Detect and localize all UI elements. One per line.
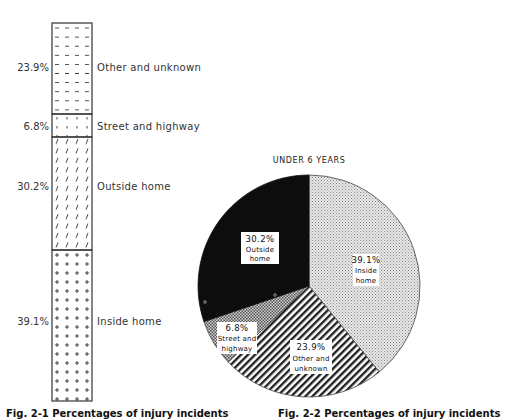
bar-label-other-unknown: Other and unknown xyxy=(97,62,201,73)
bar-pct-street-highway: 6.8% xyxy=(24,121,49,132)
pie-chart: UNDER 6 YEARS 30.2% Outside home 39.1% I… xyxy=(198,156,420,397)
svg-text:Inside: Inside xyxy=(355,267,377,275)
caption-right: Fig. 2-2 Percentages of injury incidents xyxy=(278,408,500,419)
bar-pct-outside-home: 30.2% xyxy=(17,181,49,192)
svg-text:23.9%: 23.9% xyxy=(296,342,325,352)
svg-text:39.1%: 39.1% xyxy=(351,255,380,265)
bar-segment-inside-home xyxy=(52,250,92,401)
svg-text:highway: highway xyxy=(222,345,253,353)
bar-label-outside-home: Outside home xyxy=(97,181,171,192)
svg-text:unknown: unknown xyxy=(294,365,327,373)
svg-text:Street and: Street and xyxy=(218,335,257,343)
stacked-bar: 23.9% Other and unknown 6.8% Street and … xyxy=(17,23,201,401)
pie-label-inside-home: 39.1% Inside home xyxy=(351,254,380,286)
svg-text:Outside: Outside xyxy=(246,246,274,254)
svg-text:30.2%: 30.2% xyxy=(245,234,274,244)
pie-label-street-highway: 6.8% Street and highway xyxy=(217,322,257,354)
svg-text:home: home xyxy=(356,277,377,285)
svg-text:home: home xyxy=(250,255,271,263)
bar-segment-outside-home xyxy=(52,137,92,250)
bar-pct-other-unknown: 23.9% xyxy=(17,62,49,73)
figure-caption: Fig. 2-1 Percentages of injury incidents… xyxy=(6,408,505,419)
pie-title: UNDER 6 YEARS xyxy=(273,156,346,165)
caption-left: Fig. 2-1 Percentages of injury incidents xyxy=(6,408,228,419)
bar-segment-street-highway xyxy=(52,114,92,137)
bar-label-inside-home: Inside home xyxy=(97,316,162,327)
svg-text:6.8%: 6.8% xyxy=(225,323,248,333)
svg-text:Other and: Other and xyxy=(292,355,329,363)
bar-segment-other-unknown xyxy=(52,23,92,114)
pie-label-outside-home: 30.2% Outside home xyxy=(241,232,279,264)
bar-pct-inside-home: 39.1% xyxy=(17,316,49,327)
pie-label-other-unknown: 23.9% Other and unknown xyxy=(290,340,332,374)
bar-label-street-highway: Street and highway xyxy=(97,121,200,132)
